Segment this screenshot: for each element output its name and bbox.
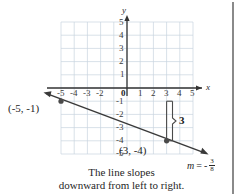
- y-tick-5: 5: [119, 18, 124, 27]
- point-marker-b: [164, 138, 169, 143]
- x-tick-4: 4: [177, 89, 182, 98]
- slope-numerator: 3: [209, 158, 215, 165]
- point-marker-a: [58, 99, 63, 104]
- x-tick-2: 2: [151, 89, 156, 98]
- page-divider-rule: [232, 2, 234, 194]
- rise-segment: [167, 101, 176, 141]
- point-label-b: (3, -4): [119, 145, 147, 156]
- caption-line-1: The line slopes: [0, 166, 243, 179]
- x-tick--2: -2: [96, 89, 104, 98]
- y-tick-1: 1: [120, 70, 125, 79]
- y-tick-3: 3: [119, 44, 124, 53]
- x-tick-5: 5: [190, 89, 195, 98]
- caption-line-2: downward from left to right.: [0, 179, 243, 192]
- x-tick--5: -5: [57, 89, 65, 98]
- y-axis-label: y: [122, 6, 126, 15]
- y-tick-2: 2: [119, 57, 124, 66]
- y-tick--2: -2: [116, 110, 124, 119]
- x-tick-1: 1: [138, 89, 143, 98]
- x-tick--3: -3: [83, 89, 91, 98]
- y-axis: [124, 15, 129, 96]
- x-tick-3: 3: [164, 89, 169, 98]
- point-label-a: (-5, -1): [8, 103, 39, 114]
- y-tick--3: -3: [116, 123, 124, 132]
- x-axis-label: x: [206, 83, 210, 92]
- y-tick--1: -1: [116, 97, 124, 106]
- rise-label: 3: [179, 115, 185, 126]
- x-tick--4: -4: [70, 89, 78, 98]
- y-tick-4: 4: [119, 31, 124, 40]
